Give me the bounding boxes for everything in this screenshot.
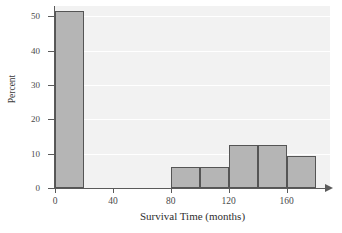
x-axis-tick-label: 40: [93, 196, 133, 206]
gridline: [55, 51, 330, 52]
histogram-figure: Percent Survival Time (months) 010203040…: [0, 0, 342, 233]
x-axis-tick-label: 120: [209, 196, 249, 206]
x-axis-tick: [171, 188, 172, 193]
y-axis-tick: [48, 51, 54, 52]
x-axis-arrow-icon: [325, 184, 333, 192]
y-axis-tick-label: 20: [14, 115, 40, 124]
y-axis-tick: [48, 188, 54, 189]
gridline: [55, 154, 330, 155]
y-axis-tick: [48, 85, 54, 86]
histogram-bar: [287, 156, 316, 188]
y-axis-tick: [48, 16, 54, 17]
y-axis-tick-label: 40: [14, 47, 40, 56]
y-axis-tick: [48, 154, 54, 155]
x-axis-tick: [287, 188, 288, 193]
x-axis-title: Survival Time (months): [55, 210, 330, 222]
x-axis-tick-label: 80: [151, 196, 191, 206]
histogram-bar: [229, 145, 258, 188]
y-axis-tick-label: 30: [14, 81, 40, 90]
y-axis-tick-label: 10: [14, 150, 40, 159]
histogram-bar: [200, 167, 229, 188]
histogram-bar: [171, 167, 200, 188]
y-axis-tick-label: 0: [14, 184, 40, 193]
y-axis-line: [54, 6, 55, 189]
x-axis-tick-label: 160: [267, 196, 307, 206]
y-axis-tick-label: 50: [14, 12, 40, 21]
histogram-bar: [258, 145, 287, 188]
x-axis-tick: [229, 188, 230, 193]
gridline: [55, 119, 330, 120]
gridline: [55, 85, 330, 86]
histogram-bar: [55, 11, 84, 188]
gridline: [55, 16, 330, 17]
x-axis-line: [48, 188, 326, 189]
x-axis-tick: [55, 188, 56, 193]
y-axis-tick: [48, 119, 54, 120]
plot-area: [55, 6, 330, 188]
x-axis-tick-label: 0: [35, 196, 75, 206]
x-axis-tick: [113, 188, 114, 193]
